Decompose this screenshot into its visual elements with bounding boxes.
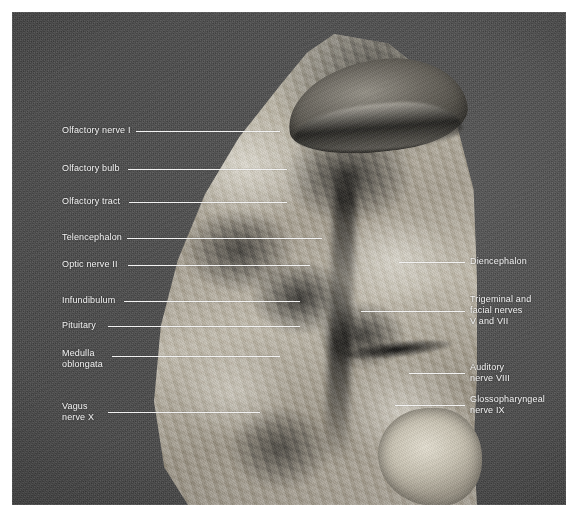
label-vagus-nerve-x[interactable]: Vagus nerve X (62, 401, 94, 423)
specimen-cerebellum-mass (378, 408, 482, 505)
label-trigeminal-facial-nerves[interactable]: Trigeminal and facial nerves V and VII (470, 294, 531, 327)
label-diencephalon[interactable]: Diencephalon (470, 256, 527, 267)
label-pituitary[interactable]: Pituitary (62, 320, 96, 331)
label-infundibulum[interactable]: Infundibulum (62, 295, 115, 306)
figure-root: Olfactory nerve I Olfactory bulb Olfacto… (0, 0, 584, 513)
label-optic-nerve-ii[interactable]: Optic nerve II (62, 259, 118, 270)
label-medulla-oblongata[interactable]: Medulla oblongata (62, 348, 103, 370)
label-olfactory-nerve-i[interactable]: Olfactory nerve I (62, 125, 131, 136)
label-glossopharyngeal-nerve-ix[interactable]: Glossopharyngeal nerve IX (470, 394, 545, 416)
label-auditory-nerve-viii[interactable]: Auditory nerve VIII (470, 362, 510, 384)
label-olfactory-bulb[interactable]: Olfactory bulb (62, 163, 120, 174)
label-telencephalon[interactable]: Telencephalon (62, 232, 122, 243)
label-olfactory-tract[interactable]: Olfactory tract (62, 196, 120, 207)
